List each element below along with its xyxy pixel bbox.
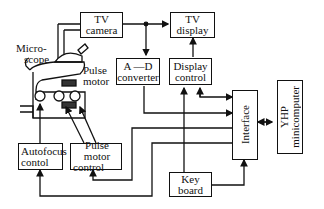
connection-lines bbox=[0, 0, 324, 209]
pulse-motor-control-label-2: control bbox=[73, 162, 104, 173]
display-control-block: Display control bbox=[169, 58, 212, 85]
display-control-label: Display bbox=[173, 61, 207, 72]
ad-converter-block: A —D converter bbox=[116, 58, 160, 85]
interface-block: Interface bbox=[232, 90, 258, 160]
keyboard-block: Key board bbox=[169, 172, 212, 197]
ad-converter-label: A —D bbox=[123, 61, 152, 72]
pulse-motor-control-block: Pulse motor control bbox=[70, 143, 122, 170]
pulse-motor-control-label: Pulse motor bbox=[73, 140, 121, 162]
tv-camera-block: TV camera bbox=[80, 12, 123, 38]
microscope-label-2: scope bbox=[24, 54, 49, 65]
ad-converter-label-2: converter bbox=[117, 72, 159, 83]
tv-display-block: TV display bbox=[170, 12, 215, 38]
autofocus-control-label: Autofocus bbox=[21, 146, 67, 157]
tv-camera-label-2: camera bbox=[86, 25, 118, 36]
minicomputer-label-2: minicomputer bbox=[290, 86, 301, 148]
keyboard-label: Key bbox=[181, 174, 199, 185]
microscope-icon bbox=[20, 24, 88, 118]
autofocus-control-label-2: contol bbox=[21, 157, 49, 168]
display-control-label-2: control bbox=[175, 72, 206, 83]
keyboard-label-2: board bbox=[178, 185, 203, 196]
tv-display-label-2: display bbox=[177, 25, 209, 36]
minicomputer-block: YHP minicomputer bbox=[277, 80, 303, 154]
interface-label: Interface bbox=[240, 105, 251, 144]
autofocus-control-block: Autofocus contol bbox=[18, 143, 63, 170]
pulse-motor-label-2: motor bbox=[83, 76, 109, 87]
